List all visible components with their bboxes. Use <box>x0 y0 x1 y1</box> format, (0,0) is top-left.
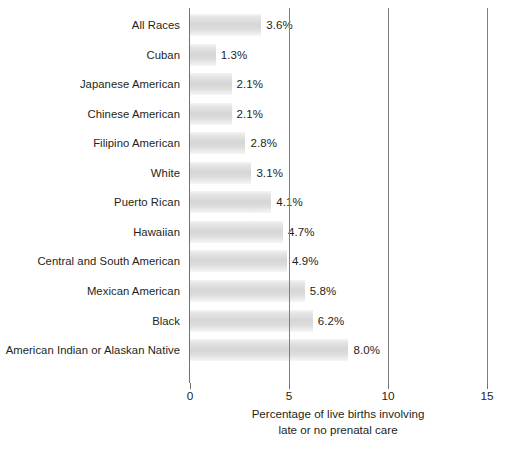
y-axis-line <box>189 8 190 383</box>
bar-value-label: 2.8% <box>250 137 277 150</box>
x-tick-label: 5 <box>274 390 304 403</box>
bar-value-label: 3.1% <box>256 167 283 180</box>
x-tick-label: 15 <box>472 390 502 403</box>
gridline <box>487 8 488 383</box>
bar-value-label: 6.2% <box>318 315 345 328</box>
bar <box>190 310 313 332</box>
bar <box>190 191 271 213</box>
bar-value-label: 8.0% <box>353 344 380 357</box>
bar-series: 3.6%1.3%2.1%2.1%2.8%3.1%4.1%4.7%4.9%5.8%… <box>0 0 531 388</box>
bar-value-label: 4.7% <box>288 226 315 239</box>
plot-area: All RacesCubanJapanese AmericanChinese A… <box>0 0 531 388</box>
bar <box>190 103 232 125</box>
bar <box>190 14 261 36</box>
bar-value-label: 2.1% <box>237 108 264 121</box>
bar <box>190 221 283 243</box>
x-axis-title-line-1: Percentage of live births involving <box>189 406 487 422</box>
bar <box>190 339 348 361</box>
x-axis-title-line-2: late or no prenatal care <box>189 422 487 438</box>
bar-value-label: 4.9% <box>292 255 319 268</box>
bar <box>190 250 287 272</box>
bar <box>190 280 305 302</box>
bar-value-label: 1.3% <box>221 49 248 62</box>
bar <box>190 132 245 154</box>
x-axis-title: Percentage of live births involving late… <box>189 406 487 437</box>
x-tick-label: 0 <box>175 390 205 403</box>
gridline <box>289 8 290 383</box>
x-tick-label: 10 <box>373 390 403 403</box>
bar-value-label: 2.1% <box>237 78 264 91</box>
bar <box>190 73 232 95</box>
bar-value-label: 5.8% <box>310 285 337 298</box>
bar <box>190 162 251 184</box>
gridline <box>388 8 389 383</box>
bar <box>190 44 216 66</box>
bar-chart: All RacesCubanJapanese AmericanChinese A… <box>0 0 531 452</box>
